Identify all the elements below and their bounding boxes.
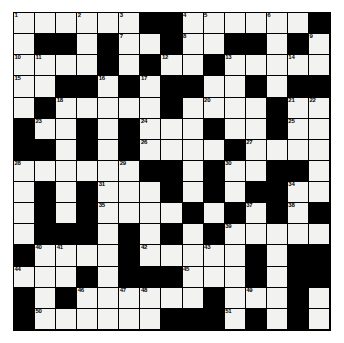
grid-cell-open[interactable]: 30 bbox=[225, 161, 246, 182]
grid-cell-open[interactable] bbox=[119, 182, 140, 203]
grid-cell-open[interactable] bbox=[56, 140, 77, 161]
grid-cell-open[interactable] bbox=[204, 76, 225, 97]
grid-cell-open[interactable] bbox=[183, 98, 204, 119]
grid-cell-open[interactable] bbox=[140, 224, 161, 245]
grid-cell-open[interactable] bbox=[246, 119, 267, 140]
grid-cell-open[interactable]: 40 bbox=[35, 245, 56, 266]
grid-cell-open[interactable]: 28 bbox=[14, 161, 35, 182]
grid-cell-open[interactable]: 37 bbox=[246, 203, 267, 224]
grid-cell-open[interactable] bbox=[140, 98, 161, 119]
grid-cell-open[interactable]: 47 bbox=[119, 288, 140, 309]
grid-cell-open[interactable] bbox=[98, 161, 119, 182]
grid-cell-open[interactable]: 8 bbox=[183, 34, 204, 55]
grid-cell-open[interactable] bbox=[288, 13, 309, 34]
grid-cell-open[interactable] bbox=[56, 55, 77, 76]
grid-cell-open[interactable] bbox=[77, 245, 98, 266]
grid-cell-open[interactable] bbox=[119, 203, 140, 224]
grid-cell-open[interactable] bbox=[35, 161, 56, 182]
grid-cell-open[interactable] bbox=[309, 309, 330, 330]
grid-cell-open[interactable] bbox=[98, 267, 119, 288]
grid-cell-open[interactable]: 2 bbox=[77, 13, 98, 34]
grid-cell-open[interactable] bbox=[14, 98, 35, 119]
grid-cell-open[interactable] bbox=[119, 98, 140, 119]
grid-cell-open[interactable] bbox=[140, 203, 161, 224]
grid-cell-open[interactable] bbox=[161, 140, 182, 161]
grid-cell-open[interactable]: 49 bbox=[246, 288, 267, 309]
grid-cell-open[interactable]: 17 bbox=[140, 76, 161, 97]
crossword-puzzle[interactable]: 1234567891011121314151617181920212223242… bbox=[13, 12, 331, 331]
grid-cell-open[interactable] bbox=[225, 13, 246, 34]
grid-cell-open[interactable] bbox=[140, 309, 161, 330]
grid-cell-open[interactable] bbox=[288, 224, 309, 245]
grid-cell-open[interactable] bbox=[225, 98, 246, 119]
grid-cell-open[interactable]: 7 bbox=[119, 34, 140, 55]
grid-cell-open[interactable]: 51 bbox=[225, 309, 246, 330]
grid-cell-open[interactable]: 9 bbox=[309, 34, 330, 55]
grid-cell-open[interactable]: 12 bbox=[161, 55, 182, 76]
grid-cell-open[interactable] bbox=[161, 119, 182, 140]
grid-cell-open[interactable] bbox=[56, 119, 77, 140]
grid-cell-open[interactable] bbox=[98, 224, 119, 245]
grid-cell-open[interactable] bbox=[225, 76, 246, 97]
grid-cell-open[interactable] bbox=[14, 182, 35, 203]
grid-cell-open[interactable] bbox=[309, 55, 330, 76]
grid-cell-open[interactable] bbox=[246, 98, 267, 119]
grid-cell-open[interactable] bbox=[77, 34, 98, 55]
grid-cell-open[interactable] bbox=[77, 309, 98, 330]
grid-cell-open[interactable]: 29 bbox=[119, 161, 140, 182]
grid-cell-open[interactable] bbox=[183, 182, 204, 203]
grid-cell-open[interactable] bbox=[225, 288, 246, 309]
grid-cell-open[interactable] bbox=[98, 98, 119, 119]
grid-cell-open[interactable] bbox=[309, 161, 330, 182]
grid-cell-open[interactable] bbox=[56, 13, 77, 34]
grid-cell-open[interactable] bbox=[140, 34, 161, 55]
grid-cell-open[interactable] bbox=[98, 288, 119, 309]
grid-cell-open[interactable] bbox=[225, 119, 246, 140]
grid-cell-open[interactable] bbox=[56, 309, 77, 330]
grid-cell-open[interactable] bbox=[267, 224, 288, 245]
grid-cell-open[interactable] bbox=[267, 309, 288, 330]
grid-cell-open[interactable]: 20 bbox=[204, 98, 225, 119]
grid-cell-open[interactable]: 22 bbox=[309, 98, 330, 119]
grid-cell-open[interactable] bbox=[309, 182, 330, 203]
grid-cell-open[interactable] bbox=[204, 140, 225, 161]
grid-cell-open[interactable] bbox=[246, 224, 267, 245]
grid-cell-open[interactable] bbox=[225, 267, 246, 288]
grid-cell-open[interactable]: 41 bbox=[56, 245, 77, 266]
grid-cell-open[interactable]: 35 bbox=[98, 203, 119, 224]
grid-cell-open[interactable] bbox=[98, 140, 119, 161]
grid-cell-open[interactable]: 21 bbox=[288, 98, 309, 119]
grid-cell-open[interactable] bbox=[56, 182, 77, 203]
grid-cell-open[interactable] bbox=[161, 288, 182, 309]
grid-cell-open[interactable] bbox=[309, 140, 330, 161]
grid-cell-open[interactable] bbox=[183, 288, 204, 309]
grid-cell-open[interactable]: 43 bbox=[204, 245, 225, 266]
grid-cell-open[interactable] bbox=[98, 119, 119, 140]
grid-cell-open[interactable] bbox=[246, 55, 267, 76]
grid-cell-open[interactable] bbox=[288, 140, 309, 161]
grid-cell-open[interactable] bbox=[183, 224, 204, 245]
grid-cell-open[interactable] bbox=[267, 76, 288, 97]
grid-cell-open[interactable]: 26 bbox=[140, 140, 161, 161]
grid-cell-open[interactable]: 25 bbox=[288, 119, 309, 140]
grid-cell-open[interactable] bbox=[98, 309, 119, 330]
grid-cell-open[interactable]: 16 bbox=[98, 76, 119, 97]
grid-cell-open[interactable] bbox=[14, 224, 35, 245]
grid-cell-open[interactable] bbox=[183, 140, 204, 161]
grid-cell-open[interactable]: 44 bbox=[14, 267, 35, 288]
grid-cell-open[interactable] bbox=[56, 267, 77, 288]
grid-cell-open[interactable] bbox=[309, 224, 330, 245]
grid-cell-open[interactable] bbox=[183, 119, 204, 140]
grid-cell-open[interactable]: 46 bbox=[77, 288, 98, 309]
grid-cell-open[interactable] bbox=[225, 182, 246, 203]
grid-cell-open[interactable] bbox=[77, 98, 98, 119]
grid-cell-open[interactable] bbox=[267, 288, 288, 309]
grid-cell-open[interactable] bbox=[77, 55, 98, 76]
grid-cell-open[interactable] bbox=[35, 76, 56, 97]
grid-cell-open[interactable] bbox=[204, 267, 225, 288]
grid-cell-open[interactable] bbox=[267, 34, 288, 55]
grid-cell-open[interactable]: 14 bbox=[288, 55, 309, 76]
grid-cell-open[interactable] bbox=[183, 55, 204, 76]
grid-cell-open[interactable]: 48 bbox=[140, 288, 161, 309]
grid-cell-open[interactable]: 3 bbox=[119, 13, 140, 34]
